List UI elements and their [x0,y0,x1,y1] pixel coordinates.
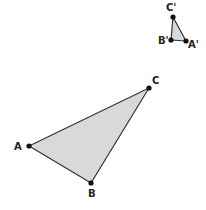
triangle-a-prime-b-prime-c-prime: A'B'C' [158,2,199,50]
vertex-label: B' [158,35,169,46]
vertex-label: A' [188,39,199,50]
vertex-label: C [152,75,159,86]
vertex-point [168,37,173,42]
vertex-point [146,85,151,90]
vertex-point [26,143,31,148]
vertex-point [88,180,93,185]
vertex-point [170,14,175,19]
vertex-label: C' [166,2,176,13]
triangle-abc-shape [29,88,149,183]
vertex-label: A [14,141,22,152]
vertex-label: B [88,188,96,199]
triangle-image-shape [171,17,186,41]
triangle-abc: ABC [14,75,159,199]
geometry-diagram: ABC A'B'C' [0,0,206,210]
